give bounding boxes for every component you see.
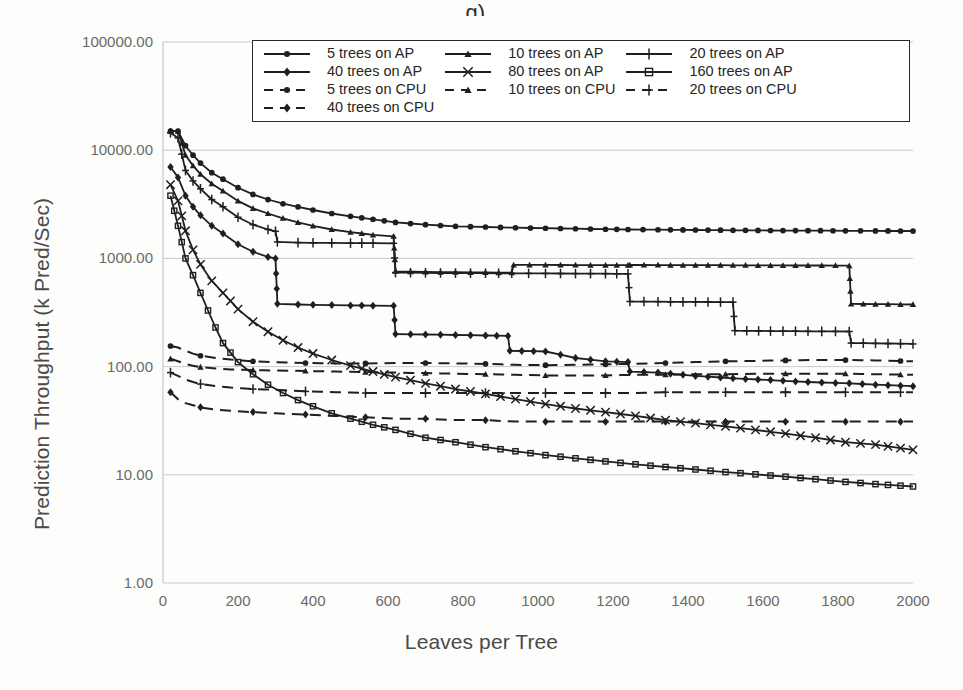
marker-diamond [283, 68, 290, 77]
marker-circle [303, 360, 309, 366]
marker-circle [284, 87, 290, 93]
marker-diamond [359, 302, 365, 310]
marker-diamond [602, 418, 608, 426]
marker-circle [468, 224, 474, 230]
marker-circle [408, 221, 414, 227]
marker-diamond [780, 377, 786, 385]
marker-circle [423, 360, 429, 366]
marker-diamond [767, 376, 773, 384]
legend-key-triangle [442, 46, 494, 62]
marker-circle [250, 192, 256, 198]
marker-circle [843, 357, 849, 363]
marker-diamond [730, 374, 736, 382]
marker-circle [768, 228, 774, 234]
legend-swatch [621, 63, 687, 81]
marker-circle [743, 227, 749, 233]
legend-swatch [259, 81, 325, 99]
marker-plus [392, 268, 399, 278]
marker-circle [359, 215, 365, 221]
marker-plus [219, 202, 226, 212]
legend-swatch [259, 45, 325, 63]
gridlines [163, 42, 913, 583]
marker-diamond [283, 104, 290, 113]
marker-plus [347, 238, 354, 248]
marker-circle [528, 225, 534, 231]
marker-circle [168, 343, 174, 349]
marker-circle [718, 227, 724, 233]
marker-circle [348, 213, 354, 219]
marker-plus [832, 327, 839, 337]
marker-diamond [274, 285, 280, 293]
marker-circle [843, 228, 849, 234]
marker-circle [209, 170, 215, 176]
marker-plus [755, 326, 762, 336]
marker-diamond [859, 380, 865, 388]
marker-circle [780, 228, 786, 234]
marker-plus [452, 268, 459, 278]
marker-plus [654, 297, 661, 307]
marker-plus [613, 269, 620, 279]
legend-empty-cell [440, 99, 506, 117]
marker-diamond [250, 248, 256, 256]
marker-diamond [832, 379, 838, 387]
marker-diamond [391, 316, 397, 324]
marker-plus [249, 220, 256, 230]
marker-plus [717, 297, 724, 307]
marker-plus [667, 297, 674, 307]
marker-cross [208, 277, 216, 285]
marker-circle [573, 226, 579, 232]
marker-diamond [742, 375, 748, 383]
marker-diamond [505, 332, 511, 340]
marker-plus [645, 85, 653, 96]
series-160-trees-on-ap [168, 193, 916, 489]
marker-circle [284, 51, 290, 57]
marker-cross [166, 181, 174, 189]
marker-diamond [295, 300, 301, 308]
legend-key-triangle [442, 82, 494, 98]
marker-diamond [805, 378, 811, 386]
marker-diamond [467, 331, 473, 339]
marker-circle [723, 358, 729, 364]
marker-plus [692, 297, 699, 307]
marker-plus [842, 387, 849, 397]
marker-circle [783, 358, 789, 364]
marker-diamond [692, 372, 698, 380]
marker-circle [873, 228, 879, 234]
legend-swatch [259, 99, 325, 117]
marker-plus [482, 268, 489, 278]
legend-key-diamond [261, 64, 313, 80]
marker-plus [743, 326, 750, 336]
marker-circle [588, 226, 594, 232]
marker-diamond [392, 330, 398, 338]
marker-diamond [452, 331, 458, 339]
marker-plus [264, 225, 271, 235]
marker-circle [558, 226, 564, 232]
legend-label: 10 trees on CPU [506, 81, 621, 99]
marker-diamond [390, 302, 396, 310]
marker-diamond [667, 370, 673, 378]
chart-legend: 5 trees on AP10 trees on AP20 trees on A… [252, 40, 910, 122]
marker-plus [846, 327, 853, 337]
marker-circle [668, 227, 674, 233]
marker-circle [603, 226, 609, 232]
marker-plus [407, 268, 414, 278]
marker-diamond [819, 378, 825, 386]
marker-plus [640, 297, 647, 307]
marker-diamond [437, 331, 443, 339]
marker-plus [722, 387, 729, 397]
marker-circle [640, 227, 646, 233]
marker-diamond [422, 331, 428, 339]
marker-circle [235, 185, 241, 191]
legend-table: 5 trees on AP10 trees on AP20 trees on A… [259, 45, 803, 117]
marker-circle [295, 204, 301, 210]
marker-plus [525, 269, 532, 279]
marker-plus [767, 326, 774, 336]
marker-plus [792, 326, 799, 336]
marker-diamond [329, 301, 335, 309]
marker-circle [190, 152, 196, 158]
marker-circle [198, 353, 204, 359]
legend-swatch [621, 81, 687, 99]
marker-circle [250, 358, 256, 364]
marker-plus [625, 283, 632, 293]
marker-diamond [265, 253, 271, 261]
